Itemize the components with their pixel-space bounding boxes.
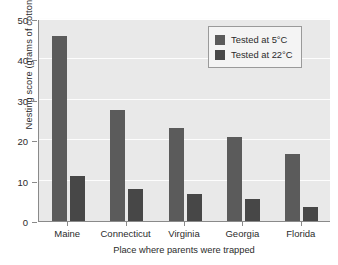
legend-swatch-icon: [215, 35, 225, 45]
x-axis-tick: [242, 222, 243, 226]
bar: [52, 36, 67, 221]
gridline: [39, 99, 330, 100]
bar: [227, 137, 242, 221]
bar: [110, 110, 125, 221]
x-axis-tick: [126, 222, 127, 226]
legend-swatch-icon: [215, 50, 225, 60]
legend-label: Tested at 5°C: [231, 34, 287, 45]
gridline: [39, 139, 330, 140]
bar: [169, 128, 184, 221]
bar: [245, 199, 260, 221]
x-axis-tick: [184, 222, 185, 226]
bar: [303, 207, 318, 221]
y-axis-tick-label: 30: [2, 95, 28, 106]
y-axis-tick: [32, 222, 37, 223]
y-axis-tick-label: 40: [2, 55, 28, 66]
y-axis-tick: [32, 182, 37, 183]
legend-item-0[interactable]: Tested at 5°C: [215, 32, 293, 47]
x-axis-title: Place where parents were trapped: [38, 245, 330, 255]
x-axis-tick: [67, 222, 68, 226]
bar: [70, 176, 85, 221]
bar-chart-figure: Nesting score (grams of cotton) 01020304…: [0, 0, 338, 265]
y-axis-tick: [32, 141, 37, 142]
bar: [285, 154, 300, 221]
y-axis-tick: [32, 60, 37, 61]
y-axis-tick-label: 20: [2, 136, 28, 147]
x-axis-tick: [301, 222, 302, 226]
gridline: [39, 18, 330, 19]
legend-item-1[interactable]: Tested at 22°C: [215, 47, 293, 62]
y-axis-tick-label: 10: [2, 176, 28, 187]
bar: [128, 189, 143, 221]
bar: [187, 194, 202, 221]
y-axis-tick-label: 50: [2, 15, 28, 26]
legend-label: Tested at 22°C: [231, 49, 293, 60]
y-axis-tick: [32, 101, 37, 102]
y-axis-tick: [32, 20, 37, 21]
y-axis-tick-label: 0: [2, 217, 28, 228]
x-axis-tick-label: Florida: [261, 228, 338, 239]
legend: Tested at 5°C Tested at 22°C: [208, 26, 302, 68]
